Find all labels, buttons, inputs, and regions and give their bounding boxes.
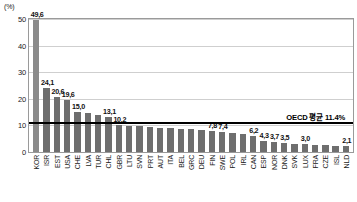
bar-cze [322, 145, 328, 152]
x-label-deu: DEU [198, 155, 205, 169]
bar-value-kor: 49,6 [31, 10, 44, 19]
bar-slot-pol [227, 19, 237, 152]
bar-isr [43, 88, 49, 152]
x-label-usa: USA [64, 155, 71, 169]
x-label-svk: SVK [291, 155, 298, 168]
x-label-slot-dnk: DNK [279, 155, 289, 200]
bar-gbr [116, 125, 122, 152]
x-label-prt: PRT [146, 155, 153, 168]
y-tick-0: 0 [2, 148, 26, 157]
bar-slot-est: 20,6 [52, 19, 62, 152]
x-label-isl: ISL [332, 155, 339, 165]
bar-svk [291, 144, 297, 153]
x-label-slot-svk: SVK [289, 155, 299, 200]
bar-slot-tur [93, 19, 103, 152]
bar-isl [332, 146, 338, 152]
bar-value-swe: 7,4 [218, 122, 227, 131]
x-label-aut: AUT [157, 155, 164, 168]
bar-slot-usa: 19,6 [62, 19, 72, 152]
oecd-average-line [29, 122, 353, 124]
bar-deu [198, 130, 204, 152]
x-label-ltu: LTU [126, 155, 133, 167]
x-label-slot-tur: TUR [93, 155, 103, 200]
x-label-irl: IRL [239, 155, 246, 165]
bar-nor [271, 142, 277, 152]
y-axis-tick-labels: 01020304050 [0, 18, 26, 153]
bar-value-dnk: 3,5 [280, 133, 289, 142]
x-label-slot-chl: CHL [103, 155, 113, 200]
bar-irl [240, 134, 246, 152]
x-label-slot-can: CAN [248, 155, 258, 200]
x-label-gbr: GBR [115, 155, 122, 170]
x-label-slot-ita: ITA [165, 155, 175, 200]
y-tick-30: 30 [2, 68, 26, 77]
x-label-lva: LVA [84, 155, 91, 167]
x-label-lux: LUX [301, 155, 308, 168]
x-label-fin: FIN [208, 155, 215, 166]
bar-slot-dnk: 3,5 [279, 19, 289, 152]
x-label-slot-pol: POL [227, 155, 237, 200]
x-label-slot-fin: FIN [207, 155, 217, 200]
bar-fin [209, 131, 215, 152]
bar-value-esp: 4,3 [260, 131, 269, 140]
x-label-slot-nld: NLD [341, 155, 351, 200]
bar-esp [260, 141, 266, 152]
bar-slot-che: 15,0 [72, 19, 82, 152]
x-label-slot-svn: SVN [134, 155, 144, 200]
x-label-nld: NLD [343, 155, 350, 168]
bar-fra [312, 145, 318, 152]
bar-svn [136, 126, 142, 152]
bar-dnk [281, 143, 287, 152]
x-label-slot-lux: LUX [300, 155, 310, 200]
bar-slot-kor: 49,6 [31, 19, 41, 152]
bar-slot-prt [145, 19, 155, 152]
bar-value-lux: 3,0 [301, 134, 310, 143]
x-label-est: EST [53, 155, 60, 168]
x-label-swe: SWE [219, 155, 226, 170]
bar-value-nor: 3,7 [270, 132, 279, 141]
oecd-average-label: OECD 평균 11.4% [286, 111, 345, 122]
x-label-slot-kor: KOR [31, 155, 41, 200]
bar-nld [343, 146, 349, 152]
bar-bel [178, 129, 184, 152]
x-label-fra: FRA [312, 155, 319, 168]
bar-lva [85, 113, 91, 152]
x-label-esp: ESP [260, 155, 267, 168]
bar-slot-nor: 3,7 [269, 19, 279, 152]
bar-slot-svn [134, 19, 144, 152]
bar-grc [188, 129, 194, 152]
bar-slot-can: 6,2 [248, 19, 258, 152]
x-label-chl: CHL [105, 155, 112, 168]
bar-slot-gbr: 10,2 [114, 19, 124, 152]
y-tick-50: 50 [2, 15, 26, 24]
bar-slot-ita [165, 19, 175, 152]
bar-slot-fra [310, 19, 320, 152]
x-label-slot-lva: LVA [83, 155, 93, 200]
x-label-tur: TUR [95, 155, 102, 169]
bar-ltu [126, 126, 132, 152]
bar-tur [95, 115, 101, 152]
y-tick-40: 40 [2, 41, 26, 50]
x-label-slot-deu: DEU [196, 155, 206, 200]
bar-aut [157, 128, 163, 152]
bar-slot-aut [155, 19, 165, 152]
bar-slot-swe: 7,4 [217, 19, 227, 152]
y-tick-10: 10 [2, 121, 26, 130]
x-label-slot-usa: USA [62, 155, 72, 200]
x-label-dnk: DNK [281, 155, 288, 169]
x-label-bel: BEL [177, 155, 184, 168]
y-tick-20: 20 [2, 94, 26, 103]
bar-usa [64, 100, 70, 152]
bar-slot-lux: 3,0 [300, 19, 310, 152]
x-label-slot-irl: IRL [238, 155, 248, 200]
bar-chart: (%) 01020304050 49,624,120,619,615,013,1… [0, 0, 357, 202]
x-label-cze: CZE [322, 155, 329, 168]
bar-series: 49,624,120,619,615,013,110,27,87,46,24,3… [29, 19, 353, 152]
bar-slot-grc [186, 19, 196, 152]
bar-slot-deu [196, 19, 206, 152]
x-label-slot-ltu: LTU [124, 155, 134, 200]
bar-slot-isr: 24,1 [41, 19, 51, 152]
bar-slot-bel [176, 19, 186, 152]
bar-che [74, 112, 80, 152]
x-label-nor: NOR [270, 155, 277, 170]
